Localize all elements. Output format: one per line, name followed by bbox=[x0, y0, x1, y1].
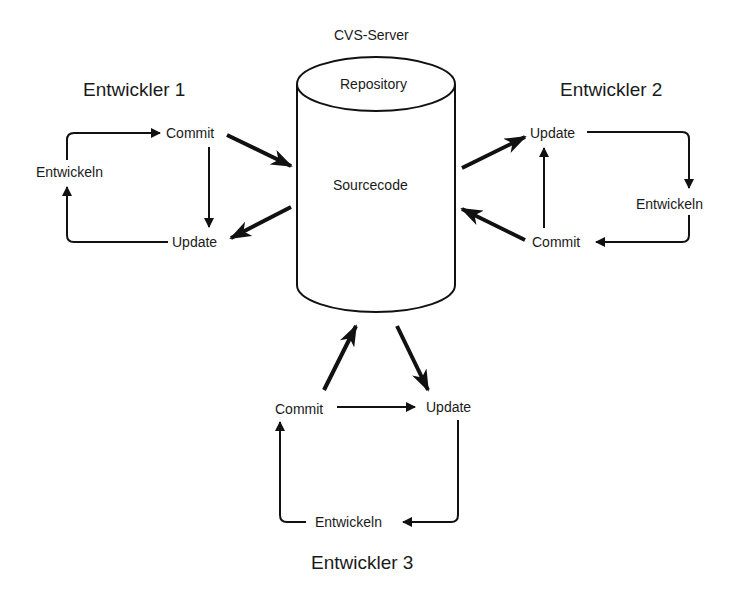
server-title: CVS-Server bbox=[334, 28, 409, 42]
developer-1-cycle bbox=[67, 133, 209, 242]
developer-3-server-arrows bbox=[324, 326, 428, 390]
developer-2-server-arrows bbox=[462, 137, 525, 240]
developer-2-title: Entwickler 2 bbox=[560, 80, 662, 99]
developer-2-update: Update bbox=[530, 126, 575, 140]
developer-3-cycle bbox=[280, 407, 458, 522]
developer-2-cycle bbox=[544, 132, 689, 242]
developer-1-server-arrows bbox=[227, 135, 291, 238]
developer-1-update: Update bbox=[172, 235, 217, 249]
developer-3-title: Entwickler 3 bbox=[311, 553, 413, 572]
sourcecode-label: Sourcecode bbox=[333, 178, 408, 192]
developer-2-commit: Commit bbox=[532, 235, 580, 249]
repository-label: Repository bbox=[340, 77, 407, 91]
developer-1-commit: Commit bbox=[166, 126, 214, 140]
developer-3-update: Update bbox=[426, 400, 471, 414]
developer-3-commit: Commit bbox=[275, 402, 323, 416]
developer-2-develop: Entwickeln bbox=[636, 197, 703, 211]
developer-3-develop: Entwickeln bbox=[315, 515, 382, 529]
developer-1-title: Entwickler 1 bbox=[83, 80, 185, 99]
developer-1-develop: Entwickeln bbox=[36, 165, 103, 179]
